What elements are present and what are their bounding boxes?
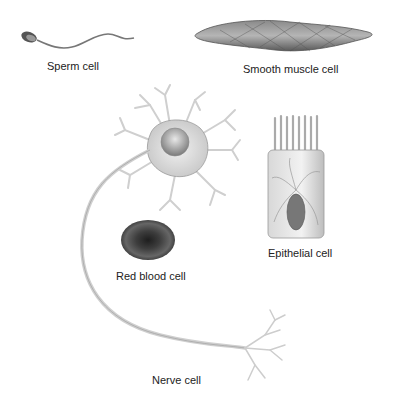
red-blood-cell-label: Red blood cell <box>116 270 186 282</box>
smooth-muscle-cell-drawing <box>195 20 372 51</box>
sperm-cell-drawing <box>20 30 134 48</box>
epithelial-cell-label: Epithelial cell <box>268 247 332 259</box>
red-blood-cell-drawing <box>121 220 175 260</box>
cell-types-diagram: Sperm cell Smooth muscle cell Epithelial… <box>0 0 393 420</box>
nerve-cell-label: Nerve cell <box>152 374 201 386</box>
smooth-muscle-cell-label: Smooth muscle cell <box>243 63 338 75</box>
epithelial-cell-drawing <box>268 116 324 238</box>
sperm-cell-label: Sperm cell <box>47 60 99 72</box>
nerve-cell-drawing <box>82 85 285 380</box>
